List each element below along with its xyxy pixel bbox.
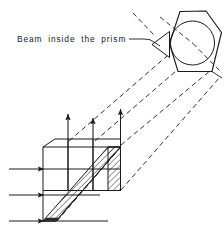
figure-container: Beam inside the prism xyxy=(0,0,224,234)
prism-outline xyxy=(170,11,222,72)
optical-diagram-svg: Beam inside the prism xyxy=(0,0,224,234)
projection-line-3 xyxy=(121,70,211,145)
projection-line-4 xyxy=(121,77,220,190)
projection-line-2 xyxy=(95,71,176,141)
pentaprism-group xyxy=(133,11,222,78)
beam-block-group xyxy=(43,139,121,221)
prism-exit-corner xyxy=(212,72,222,79)
prism-entrance-face xyxy=(152,32,170,58)
beam-top-face xyxy=(43,139,121,147)
projection-line-1 xyxy=(69,56,167,141)
prism-external-ray xyxy=(133,13,155,36)
incoming-rays-group xyxy=(9,169,44,221)
beam-label-text: Beam inside the prism xyxy=(17,34,126,44)
beam-label-group: Beam inside the prism xyxy=(17,34,160,46)
